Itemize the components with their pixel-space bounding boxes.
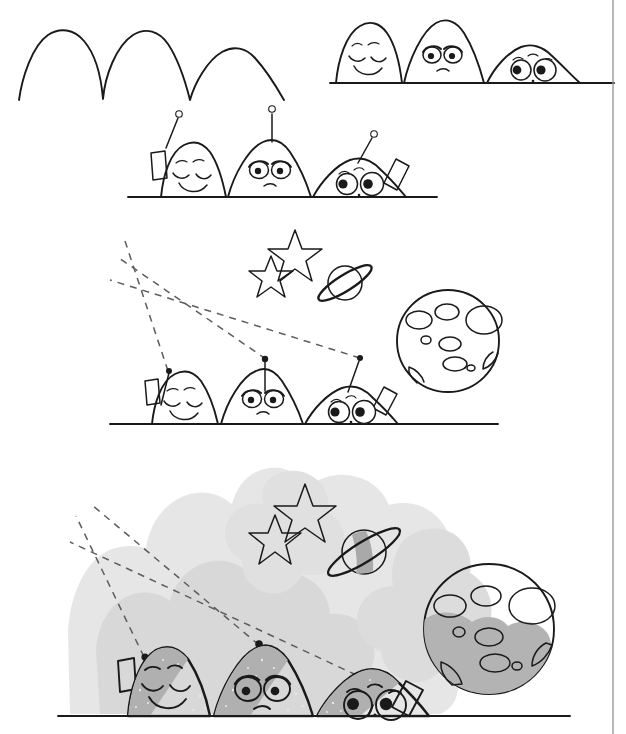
page-border bbox=[0, 0, 626, 734]
illustration-page bbox=[0, 0, 626, 734]
